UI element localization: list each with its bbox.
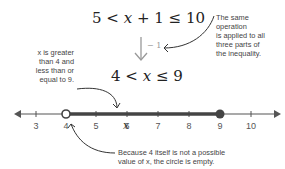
curved-arrow-icon (68, 124, 115, 153)
tick-label: 4 (63, 121, 68, 131)
closed-circle-icon (216, 110, 225, 119)
curved-arrow-icon (164, 16, 214, 52)
tick-label: 3 (33, 121, 38, 131)
tick-label: 7 (155, 121, 160, 131)
tick-label: 5 (93, 121, 98, 131)
diagram-graphics (0, 0, 285, 169)
number-line (14, 110, 281, 119)
tick-label: 9 (217, 121, 222, 131)
tick-label: 10 (246, 121, 256, 131)
curved-arrow-icon (77, 88, 120, 108)
left-arrowhead-icon (14, 110, 21, 118)
tick-label: 8 (186, 121, 191, 131)
open-circle-icon (62, 110, 70, 118)
tick-label: 6 (124, 121, 129, 131)
down-arrow-icon (135, 37, 147, 60)
right-arrowhead-icon (274, 110, 281, 118)
